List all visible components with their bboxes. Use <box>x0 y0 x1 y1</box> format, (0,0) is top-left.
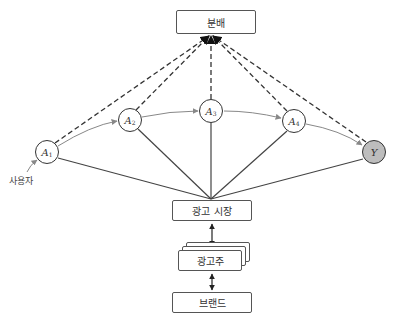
advertiser-label: 광고주 <box>197 253 224 268</box>
node-letter: A <box>288 116 295 127</box>
brand-box: 브랜드 <box>172 292 252 313</box>
node-a2: A2 <box>118 108 142 132</box>
distribution-label: 분배 <box>207 15 225 30</box>
node-letter: A <box>41 147 48 158</box>
node-letter: Y <box>371 147 378 158</box>
node-a4: A4 <box>282 109 306 133</box>
user-label: 사용자 <box>9 174 33 187</box>
distribution-box: 분배 <box>176 10 256 34</box>
node-sub: 2 <box>132 119 136 126</box>
ad-market-box: 광고 시장 <box>172 200 252 221</box>
market-edges <box>58 123 363 199</box>
node-sub: 4 <box>296 120 300 127</box>
node-letter: A <box>205 106 212 117</box>
node-a1: A1 <box>35 140 59 164</box>
node-letter: A <box>124 115 131 126</box>
node-y: Y <box>362 140 386 164</box>
node-sub: 1 <box>49 151 53 158</box>
user-arrow <box>27 160 37 172</box>
brand-label: 브랜드 <box>199 295 226 310</box>
ad-market-label: 광고 시장 <box>192 203 231 218</box>
diagram-edges <box>0 0 395 330</box>
node-sub: 3 <box>213 110 217 117</box>
advertiser-box: 광고주 <box>178 250 242 271</box>
node-a3: A3 <box>199 99 223 123</box>
